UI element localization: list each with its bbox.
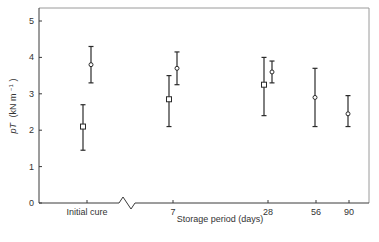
series-square xyxy=(81,57,267,150)
y-axis-unit-close: ) xyxy=(8,79,18,82)
series-circle xyxy=(89,46,351,126)
y-tick-label: 1 xyxy=(29,162,34,172)
data-point xyxy=(81,105,86,151)
x-tick-label: 56 xyxy=(311,207,321,217)
y-tick-label: 0 xyxy=(29,198,34,208)
y-axis-title: pT (kN m −1 ) xyxy=(5,79,18,135)
square-marker xyxy=(81,124,86,129)
x-tick-label: Initial cure xyxy=(66,207,107,217)
y-tick-label: 3 xyxy=(29,89,34,99)
data-point xyxy=(167,76,172,127)
y-ticks: 012345 xyxy=(29,16,42,208)
x-tick-label: 90 xyxy=(344,207,354,217)
chart: 012345 Initial cure7285690 Storage perio… xyxy=(0,0,379,242)
data-point xyxy=(175,52,180,85)
svg-text:pT (kN m −1: pT (kN m −1 ) xyxy=(5,79,18,135)
circle-marker xyxy=(313,95,317,99)
x-tick-label: 7 xyxy=(170,207,175,217)
circle-marker xyxy=(270,70,274,74)
data-point xyxy=(313,68,318,126)
square-marker xyxy=(262,82,267,87)
square-marker xyxy=(167,97,172,102)
data-point xyxy=(270,61,275,83)
y-axis-unit: (kN m xyxy=(8,93,18,117)
data-series xyxy=(81,46,351,150)
x-axis-title: Storage period (days) xyxy=(177,214,264,224)
circle-marker xyxy=(346,112,350,116)
y-tick-label: 2 xyxy=(29,125,34,135)
circle-marker xyxy=(89,63,93,67)
y-axis-unit-exp: −1 xyxy=(8,83,14,91)
data-point xyxy=(89,46,94,82)
y-tick-label: 4 xyxy=(29,52,34,62)
data-point xyxy=(262,57,267,115)
plot-frame xyxy=(39,8,369,203)
data-point xyxy=(346,96,351,127)
x-tick-label: 28 xyxy=(263,207,273,217)
circle-marker xyxy=(175,66,179,70)
y-tick-label: 5 xyxy=(29,16,34,26)
y-axis-symbol: pT xyxy=(8,121,18,134)
